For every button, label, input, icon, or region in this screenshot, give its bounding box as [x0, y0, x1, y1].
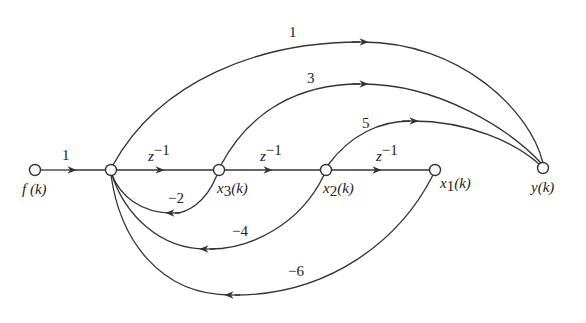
- gain-x3-x2: z−1: [259, 142, 282, 164]
- node-y: [538, 163, 549, 174]
- node-sum: [106, 165, 117, 176]
- gain-x2-y: 5: [362, 115, 370, 131]
- gain-f-a: 1: [62, 147, 70, 163]
- branch-x1-feedback: [111, 175, 433, 295]
- label-x1: x1(k): [439, 175, 471, 194]
- node-f: [30, 165, 41, 176]
- signal-flow-graph: f (k) x3(k) x2(k) x1(k) y(k) 1 z−1 z−1 z…: [0, 0, 586, 323]
- gain-x3-y: 3: [307, 70, 315, 86]
- label-x3: x3(k): [216, 180, 248, 199]
- gain-x2-x1: z−1: [375, 142, 398, 164]
- node-x1: [430, 165, 441, 176]
- gain-feedback-x1: −6: [288, 263, 304, 279]
- branch-a-to-y: [113, 42, 543, 165]
- gain-a-x3: z−1: [147, 142, 170, 164]
- label-y: y(k): [529, 179, 554, 196]
- gain-a-y: 1: [289, 24, 297, 40]
- node-x3: [214, 165, 225, 176]
- gain-feedback-x3: −2: [168, 190, 184, 206]
- gain-feedback-x2: −4: [232, 223, 248, 239]
- branch-x2-to-y: [328, 121, 539, 165]
- label-x2: x2(k): [322, 180, 354, 199]
- label-f: f (k): [22, 181, 47, 198]
- node-x2: [321, 165, 332, 176]
